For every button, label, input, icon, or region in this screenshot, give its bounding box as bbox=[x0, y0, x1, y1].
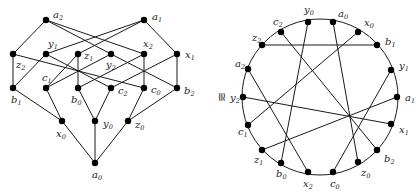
lattice-edge-c2-y0 bbox=[95, 88, 111, 121]
circle-label-b1: b1 bbox=[385, 36, 396, 49]
circle-label-c2: c2 bbox=[273, 16, 283, 29]
circle-label-b0: b0 bbox=[276, 168, 287, 181]
lattice-vertex-z0 bbox=[125, 118, 131, 124]
circle-vertex-a1 bbox=[394, 94, 400, 100]
circle-label-y1: y1 bbox=[398, 60, 409, 73]
lattice-label-a1: a1 bbox=[152, 11, 162, 24]
circle-label-x0: x0 bbox=[364, 17, 374, 30]
lattice-label-x2: x2 bbox=[143, 38, 153, 51]
lattice-vertex-x0 bbox=[59, 118, 65, 124]
lattice-vertex-z2 bbox=[10, 51, 16, 57]
lattice-vertex-y0 bbox=[92, 118, 98, 124]
lattice-label-y0: y0 bbox=[102, 118, 113, 131]
circle-edge-c2-b2 bbox=[281, 32, 377, 150]
lattice-label-b1: b1 bbox=[11, 94, 22, 107]
lattice-vertex-z1 bbox=[75, 51, 81, 57]
circle-vertex-c1 bbox=[245, 122, 251, 128]
circle-label-c0: c0 bbox=[330, 178, 340, 191]
circle-vertex-b0 bbox=[278, 160, 284, 166]
circle-edge-z1-a1 bbox=[262, 97, 397, 150]
circle-labels: y0a0x0b1y1a1x1b2z0c0x2b0z1c1y2a2z2c2 bbox=[229, 4, 415, 191]
lattice-label-z0: z0 bbox=[134, 119, 144, 132]
lattice-vertex-a0 bbox=[92, 160, 98, 166]
circle-vertex-y1 bbox=[388, 67, 394, 73]
circle-label-a2: a2 bbox=[235, 58, 245, 71]
circle-vertex-z0 bbox=[355, 159, 361, 165]
lattice-vertex-c2 bbox=[108, 85, 114, 91]
lattice-label-z1: z1 bbox=[83, 50, 93, 63]
lattice-vertex-a1 bbox=[141, 17, 147, 23]
lattice-label-b0: b0 bbox=[71, 94, 82, 107]
circle-vertex-y2 bbox=[240, 94, 246, 100]
lattice-label-y1: y1 bbox=[47, 38, 58, 51]
lattice-vertex-c1 bbox=[43, 85, 49, 91]
circle-vertex-x0 bbox=[355, 29, 361, 35]
lattice-label-c0: c0 bbox=[151, 84, 161, 97]
lattice-vertex-y2 bbox=[108, 51, 114, 57]
lattice-edge-a1-z1 bbox=[78, 20, 144, 54]
isomorphism-diagram: a2a1z2y1z1y2x2x1b1c1b0c2c0b2x0y0z0a0 ≅ y… bbox=[0, 0, 417, 196]
lattice-label-c1: c1 bbox=[42, 72, 52, 85]
circle-vertex-z1 bbox=[259, 147, 265, 153]
lattice-edge-a2-z2 bbox=[13, 20, 46, 54]
lattice-vertex-b0 bbox=[75, 85, 81, 91]
lattice-graph: a2a1z2y1z1y2x2x1b1c1b0c2c0b2x0y0z0a0 bbox=[10, 9, 195, 182]
lattice-label-y2: y2 bbox=[105, 59, 116, 72]
isomorphism-symbol: ≅ bbox=[215, 92, 229, 102]
lattice-label-x1: x1 bbox=[185, 49, 195, 62]
lattice-vertex-c0 bbox=[141, 85, 147, 91]
lattice-vertex-a2 bbox=[43, 17, 49, 23]
circle-graph: y0a0x0b1y1a1x1b2z0c0x2b0z1c1y2a2z2c2 bbox=[229, 4, 415, 191]
circle-label-a1: a1 bbox=[405, 92, 415, 105]
circle-label-y0: y0 bbox=[303, 4, 314, 17]
lattice-vertex-x2 bbox=[141, 51, 147, 57]
circle-vertex-a0 bbox=[330, 19, 336, 25]
circle-label-z2: z2 bbox=[251, 32, 261, 45]
circle-label-x1: x1 bbox=[399, 124, 409, 137]
circle-edge-y1-c0 bbox=[333, 70, 391, 172]
lattice-label-c2: c2 bbox=[118, 85, 128, 98]
circle-vertex-b1 bbox=[374, 42, 380, 48]
circle-label-z0: z0 bbox=[360, 167, 370, 180]
circle-vertex-x2 bbox=[305, 169, 311, 175]
circle-edge-y0-b0 bbox=[281, 22, 308, 163]
circle-vertex-y0 bbox=[305, 19, 311, 25]
circle-vertex-a2 bbox=[245, 66, 251, 72]
circle-label-z1: z1 bbox=[253, 154, 263, 167]
lattice-vertex-y1 bbox=[43, 51, 49, 57]
circle-label-b2: b2 bbox=[384, 153, 395, 166]
lattice-label-a0: a0 bbox=[92, 169, 102, 182]
lattice-label-b2: b2 bbox=[184, 85, 195, 98]
lattice-vertex-x1 bbox=[174, 51, 180, 57]
circle-label-x2: x2 bbox=[303, 178, 313, 191]
lattice-label-z2: z2 bbox=[15, 59, 25, 72]
lattice-vertex-b1 bbox=[10, 85, 16, 91]
circle-vertex-c2 bbox=[278, 29, 284, 35]
circle-vertex-c0 bbox=[330, 169, 336, 175]
circle-label-y2: y2 bbox=[229, 92, 240, 105]
circle-label-a0: a0 bbox=[338, 8, 348, 21]
lattice-labels: a2a1z2y1z1y2x2x1b1c1b0c2c0b2x0y0z0a0 bbox=[11, 9, 195, 182]
lattice-vertex-b2 bbox=[174, 85, 180, 91]
circle-vertex-x1 bbox=[388, 121, 394, 127]
lattice-label-x0: x0 bbox=[56, 128, 66, 141]
circle-vertex-b2 bbox=[374, 147, 380, 153]
lattice-edge-x0-a0 bbox=[62, 121, 95, 163]
circle-label-c1: c1 bbox=[238, 126, 248, 139]
lattice-label-a2: a2 bbox=[53, 9, 63, 22]
